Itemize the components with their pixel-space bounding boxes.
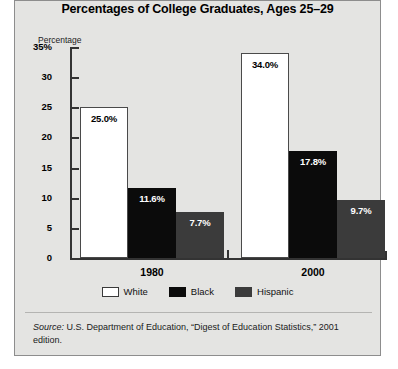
y-tick-label: 20 (41, 131, 52, 142)
x-axis-end-cap (385, 251, 387, 260)
y-tick-mark (72, 77, 79, 79)
y-tick-label: 5 (47, 222, 52, 233)
legend-item-white: White (102, 286, 148, 297)
y-tick-mark (72, 137, 79, 139)
chart-panel: Percentages of College Graduates, Ages 2… (14, 0, 381, 356)
bar-value-label: 17.8% (289, 156, 337, 167)
category-label-2000: 2000 (241, 266, 385, 278)
bar-black-1980: 11.6% (128, 188, 176, 258)
legend-swatch-black (169, 287, 186, 297)
x-axis-mid-tick (227, 250, 229, 259)
y-tick-mark (72, 47, 79, 49)
bar-value-label: 34.0% (242, 59, 288, 70)
plot-area: 35%302520151050 25.0%11.6%7.7%34.0%17.8%… (56, 47, 387, 261)
bar-value-label: 11.6% (128, 193, 176, 204)
y-tick-mark (72, 198, 79, 200)
legend-label: White (124, 286, 148, 297)
y-tick-mark (72, 228, 79, 230)
y-tick-mark (72, 107, 79, 109)
source-note: Source: U.S. Department of Education, “D… (33, 321, 365, 347)
bar-hispanic-1980: 7.7% (176, 212, 224, 258)
bar-white-2000: 34.0% (241, 53, 289, 258)
legend-item-black: Black (169, 286, 214, 297)
y-tick-label: 10 (41, 192, 52, 203)
y-tick-label: 30 (41, 71, 52, 82)
legend-swatch-hispanic (235, 287, 252, 297)
y-tick-label: 25 (41, 101, 52, 112)
y-tick-label: 0 (47, 252, 52, 263)
chart-title: Percentages of College Graduates, Ages 2… (15, 2, 380, 16)
legend-swatch-white (102, 287, 119, 297)
bar-hispanic-2000: 9.7% (337, 200, 385, 258)
source-prefix: Source: (33, 322, 64, 332)
y-tick-mark (72, 258, 79, 260)
y-tick-label: 35% (33, 41, 52, 52)
legend-label: Hispanic (257, 286, 293, 297)
source-divider (25, 312, 372, 313)
bar-white-1980: 25.0% (80, 107, 128, 258)
bar-value-label: 7.7% (176, 217, 224, 228)
legend-item-hispanic: Hispanic (235, 286, 293, 297)
bar-value-label: 25.0% (81, 113, 127, 124)
y-tick-mark (72, 168, 79, 170)
chart-legend: WhiteBlackHispanic (15, 286, 380, 297)
bar-black-2000: 17.8% (289, 151, 337, 258)
category-label-1980: 1980 (80, 266, 224, 278)
y-tick-label: 15 (41, 162, 52, 173)
legend-label: Black (191, 286, 214, 297)
source-text: U.S. Department of Education, “Digest of… (33, 322, 339, 345)
bar-value-label: 9.7% (337, 205, 385, 216)
